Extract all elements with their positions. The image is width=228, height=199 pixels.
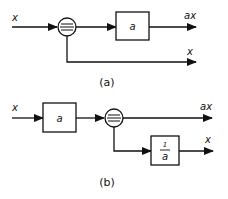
to-inverse-arrow-b [114, 127, 151, 151]
block-diagram: x a ax x (a) x a ax 1 [0, 0, 228, 199]
inverse-numerator-b: 1 [163, 141, 167, 149]
diagram-b: x a ax 1 a x (b) [11, 101, 213, 189]
diagram-a: x a ax x (a) [11, 10, 196, 89]
caption-b: (b) [99, 176, 115, 189]
pickoff-node-b [105, 109, 123, 127]
inverse-denominator-b: a [162, 151, 168, 162]
input-label-a: x [11, 12, 18, 23]
output-bottom-label-a: x [186, 46, 193, 57]
output-top-label-b: ax [200, 101, 212, 112]
input-label-b: x [11, 102, 18, 113]
output-top-label-a: ax [184, 10, 196, 21]
pickoff-node-a [58, 18, 76, 36]
caption-a: (a) [99, 76, 114, 89]
output-bottom-label-b: x [204, 134, 211, 145]
gain-label-a: a [129, 21, 135, 32]
gain-label-b: a [56, 113, 62, 124]
